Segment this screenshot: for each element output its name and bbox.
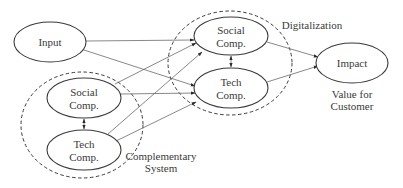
- node-tech-comp-digitalization: Tech Comp.: [194, 68, 268, 108]
- complementary-system-label-line1: Complementary: [126, 150, 197, 162]
- complementary-system-label-line2: System: [145, 162, 178, 174]
- node-social-comp-digitalization: Social Comp.: [194, 17, 268, 55]
- node-tech-comp-complementary-line2: Comp.: [69, 151, 99, 163]
- diagram-canvas: Input Social Comp. Tech Comp. Social Com…: [0, 0, 403, 188]
- node-social-comp-complementary-line2: Comp.: [69, 99, 99, 111]
- node-input-label: Input: [38, 36, 61, 48]
- edge-social-comp-to-tech-digital: [121, 93, 195, 94]
- node-social-comp-digitalization-line2: Comp.: [216, 37, 246, 49]
- digitalization-label: Digitalization: [282, 19, 343, 31]
- node-tech-comp-digitalization-line2: Comp.: [216, 89, 246, 101]
- impact-caption-line2: Customer: [331, 100, 374, 112]
- node-social-comp-digitalization-line1: Social: [217, 24, 245, 36]
- edge-social-comp-to-social-digital: [115, 43, 196, 84]
- node-input: Input: [14, 22, 86, 62]
- node-tech-comp-digitalization-line1: Tech: [220, 76, 242, 88]
- node-impact-label: Impact: [337, 57, 368, 69]
- edge-tech-comp-to-tech-digital: [116, 102, 196, 141]
- edge-input-to-social-digital: [86, 40, 194, 41]
- impact-caption-line1: Value for: [332, 88, 373, 100]
- edge-tech-digital-to-impact: [267, 66, 318, 82]
- node-tech-comp-complementary: Tech Comp.: [47, 130, 121, 170]
- node-social-comp-complementary: Social Comp.: [47, 78, 121, 118]
- edge-social-digital-to-impact: [267, 42, 318, 57]
- node-tech-comp-complementary-line1: Tech: [73, 138, 95, 150]
- node-social-comp-complementary-line1: Social: [70, 86, 98, 98]
- node-impact: Impact: [316, 43, 388, 83]
